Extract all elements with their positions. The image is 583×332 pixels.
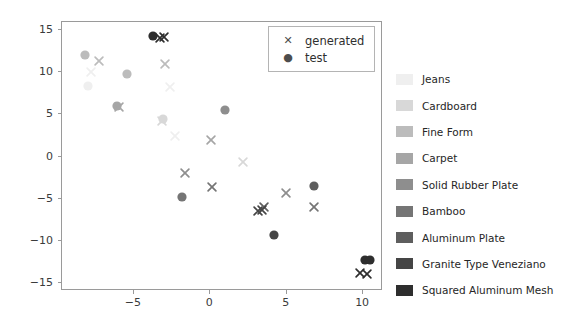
x-tick-mark — [286, 290, 287, 294]
data-point-generated — [156, 116, 167, 127]
class-legend-item[interactable]: Carpet — [396, 145, 553, 171]
class-color-swatch — [396, 258, 413, 269]
data-point-generated — [308, 202, 319, 213]
class-legend-label: Aluminum Plate — [422, 232, 505, 244]
data-point-test — [269, 230, 280, 241]
class-color-swatch — [396, 179, 413, 190]
y-tick-mark — [58, 29, 62, 30]
data-point-generated — [238, 156, 249, 167]
y-tick-label: 10 — [39, 64, 53, 77]
class-color-swatch — [396, 100, 413, 111]
y-tick-label: 0 — [46, 149, 53, 162]
marker-legend-label: generated — [305, 34, 364, 48]
scatter-plot-figure: −50510151050−5−10−15 ✕ generated ● test … — [0, 0, 583, 332]
y-tick-mark — [58, 113, 62, 114]
class-legend-label: Cardboard — [422, 100, 477, 112]
y-tick-label: −5 — [37, 191, 53, 204]
data-point-generated — [206, 134, 217, 145]
marker-legend-item: ✕ generated — [277, 32, 364, 49]
data-point-test — [308, 181, 319, 192]
data-point-generated — [179, 168, 190, 179]
class-legend-item[interactable]: Granite Type Veneziano — [396, 251, 553, 277]
x-tick-label: −5 — [125, 296, 141, 309]
circle-marker-icon: ● — [277, 52, 299, 63]
y-tick-mark — [58, 71, 62, 72]
x-tick-mark — [133, 290, 134, 294]
class-color-swatch — [396, 126, 413, 137]
data-point-generated — [94, 56, 105, 67]
class-color-swatch — [396, 74, 413, 85]
x-tick-mark — [362, 290, 363, 294]
class-legend-label: Fine Form — [422, 126, 473, 138]
x-tick-label: 10 — [355, 296, 369, 309]
data-point-generated — [256, 205, 267, 216]
x-tick-label: 0 — [206, 296, 213, 309]
data-point-generated — [86, 67, 97, 78]
x-tick-label: 5 — [282, 296, 289, 309]
data-point-generated — [361, 268, 372, 279]
marker-legend-item: ● test — [277, 49, 364, 66]
data-point-test — [220, 105, 231, 116]
class-legend-item[interactable]: Solid Rubber Plate — [396, 172, 553, 198]
class-legend-item[interactable]: Aluminum Plate — [396, 224, 553, 250]
class-legend: JeansCardboardFine FormCarpetSolid Rubbe… — [396, 66, 553, 304]
data-point-generated — [158, 32, 169, 43]
y-tick-mark — [58, 282, 62, 283]
data-point-generated — [281, 188, 292, 199]
class-color-swatch — [396, 153, 413, 164]
class-legend-label: Granite Type Veneziano — [422, 258, 546, 270]
class-legend-label: Solid Rubber Plate — [422, 179, 518, 191]
class-legend-item[interactable]: Fine Form — [396, 119, 553, 145]
data-point-test — [177, 192, 188, 203]
y-tick-mark — [58, 240, 62, 241]
x-tick-mark — [209, 290, 210, 294]
class-color-swatch — [396, 285, 413, 296]
y-tick-label: 5 — [46, 107, 53, 120]
marker-legend: ✕ generated ● test — [268, 26, 375, 72]
class-legend-label: Bamboo — [422, 205, 465, 217]
y-tick-label: −15 — [30, 276, 53, 289]
class-legend-item[interactable]: Jeans — [396, 66, 553, 92]
data-point-test — [79, 50, 90, 61]
class-legend-item[interactable]: Cardboard — [396, 92, 553, 118]
class-legend-label: Jeans — [422, 73, 450, 85]
data-point-test — [121, 69, 132, 80]
data-point-generated — [170, 131, 181, 142]
data-point-generated — [165, 82, 176, 93]
y-tick-mark — [58, 198, 62, 199]
marker-legend-label: test — [305, 51, 327, 65]
y-tick-label: −10 — [30, 234, 53, 247]
y-tick-label: 15 — [39, 22, 53, 35]
data-point-generated — [113, 102, 124, 113]
class-legend-label: Squared Aluminum Mesh — [422, 284, 553, 296]
data-point-test — [82, 81, 93, 92]
data-point-generated — [207, 182, 218, 193]
data-point-generated — [160, 58, 171, 69]
data-point-test — [365, 255, 376, 266]
class-color-swatch — [396, 206, 413, 217]
class-legend-label: Carpet — [422, 152, 457, 164]
class-legend-item[interactable]: Bamboo — [396, 198, 553, 224]
class-legend-item[interactable]: Squared Aluminum Mesh — [396, 277, 553, 303]
class-color-swatch — [396, 232, 413, 243]
y-tick-mark — [58, 156, 62, 157]
cross-marker-icon: ✕ — [277, 35, 299, 46]
